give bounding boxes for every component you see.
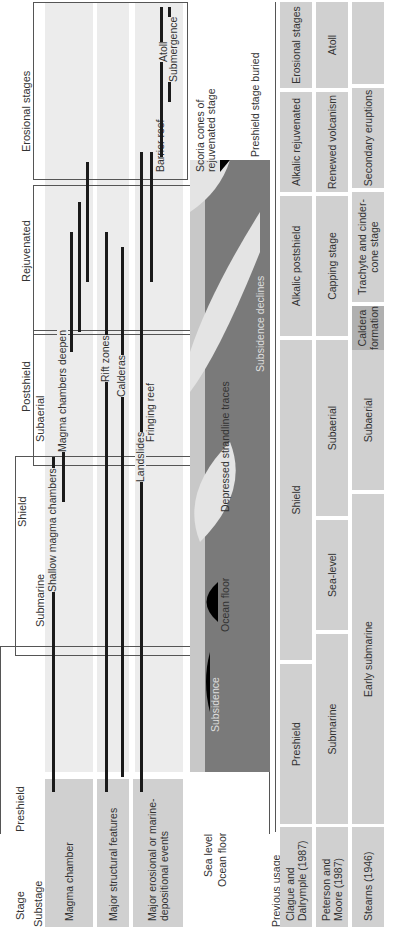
bar-fringing-reef bbox=[150, 152, 153, 282]
clague-rejuvenated: Alkalic rejuvenated bbox=[280, 92, 312, 192]
stage-label-preshield: Preshield bbox=[14, 786, 26, 832]
label-fringing-reef: Fringing reef bbox=[145, 383, 156, 442]
divider bbox=[275, 2, 276, 832]
bar-rift-zones bbox=[105, 232, 108, 792]
label-shallow-magma: Shallow magma chambers bbox=[47, 468, 58, 592]
hawaiian-volcano-stages-diagram: Stage Substage Magma chamber Major struc… bbox=[0, 0, 395, 932]
stearns-early-submarine: Early submarine bbox=[352, 494, 384, 824]
substage-label-submarine: Submarine bbox=[34, 574, 46, 627]
stage-header-label: Stage bbox=[14, 891, 26, 920]
bar-magma-deepen-2 bbox=[70, 232, 73, 352]
peterson-capping: Capping stage bbox=[316, 196, 348, 336]
row-label-ocean-floor: Ocean floor bbox=[216, 833, 228, 887]
stage-label-postshield: Postshield bbox=[20, 361, 32, 412]
stearns-subaerial: Subaerial bbox=[352, 350, 384, 490]
substage-label-subaerial: Subaerial bbox=[34, 396, 46, 442]
label-magma-deepen: Magma chambers deepen bbox=[57, 330, 68, 452]
label-subsidence-declines: Subsidence declines bbox=[255, 276, 266, 372]
bar-calderas bbox=[121, 247, 124, 777]
clague-shield: Shield bbox=[280, 340, 312, 660]
label-ocean-floor-section: Ocean floor bbox=[220, 578, 231, 632]
bar-atoll bbox=[160, 7, 163, 157]
label-subsidence: Subsidence bbox=[210, 677, 221, 732]
label-depressed-strandline: Depressed strandline traces bbox=[220, 381, 231, 512]
peterson-sea-level: Sea-level bbox=[316, 520, 348, 630]
stearns-caldera: Caldera formation bbox=[352, 306, 384, 350]
label-preshield-buried: Preshield stage buried bbox=[250, 53, 261, 157]
stearns-trachyte: Trachyte and cinder-cone stage bbox=[352, 192, 384, 302]
peterson-subaerial: Subaerial bbox=[316, 340, 348, 516]
row-label-sea-level: Sea level bbox=[202, 834, 214, 877]
substage-header-label: Substage bbox=[32, 881, 44, 927]
label-calderas: Calderas bbox=[116, 355, 127, 397]
peterson-submarine: Submarine bbox=[316, 634, 348, 824]
source-stearns: Stearns (1946) bbox=[352, 827, 384, 927]
stage-label-rejuvenated: Rejuvenated bbox=[20, 220, 32, 282]
label-scoria-cones: Scoria cones of rejuvenated stage bbox=[195, 82, 217, 172]
label-submergence: Submergence bbox=[168, 17, 179, 82]
source-clague: Clague and Dalrymple (1987) bbox=[280, 827, 312, 927]
stearns-empty bbox=[352, 2, 384, 84]
stearns-secondary: Secondary eruptions bbox=[352, 88, 384, 188]
bar-magma-deepen-4 bbox=[86, 162, 89, 282]
clague-erosional: Erosional stages bbox=[280, 2, 312, 88]
stage-label-erosional: Erosional stages bbox=[20, 71, 32, 152]
stage-label-shield: Shield bbox=[16, 496, 28, 527]
clague-postshield: Alkalic postshield bbox=[280, 196, 312, 336]
bar-magma-deepen-3 bbox=[78, 202, 81, 332]
peterson-renewed: Renewed volcanism bbox=[316, 92, 348, 192]
label-rift-zones: Rift zones bbox=[100, 335, 111, 382]
peterson-atoll: Atoll bbox=[316, 2, 348, 88]
source-peterson: Peterson and Moore (1987) bbox=[316, 827, 348, 927]
clague-preshield: Preshield bbox=[280, 664, 312, 824]
